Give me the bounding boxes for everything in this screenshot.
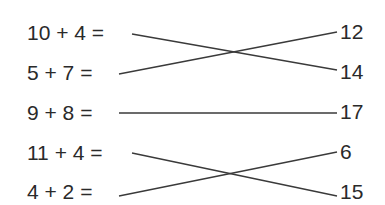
matching-lines [0,0,385,205]
match-line-11plus4-to-15 [132,153,337,196]
match-line-5plus7-to-12 [119,32,337,74]
